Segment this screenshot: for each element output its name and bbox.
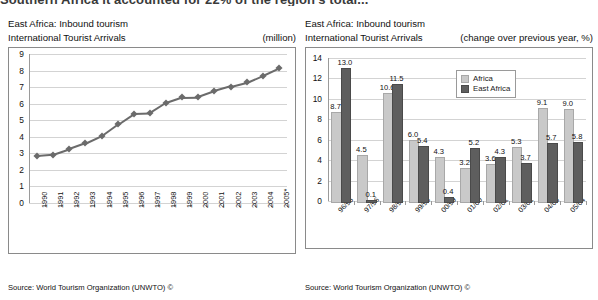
y-axis-tick-label: 8 (306, 114, 322, 124)
left-chart-unit: (million) (262, 32, 296, 43)
data-point-marker (179, 94, 186, 101)
legend-item-east-africa: East Africa (461, 84, 510, 94)
y-axis-tick-label: 2 (306, 176, 322, 186)
line-chart: 0123456789199019911992199319941995199619… (9, 48, 295, 253)
bar-east-africa (392, 84, 403, 203)
left-chart-title: East Africa: Inbound tourism (8, 18, 296, 29)
bar-value-label: 5.4 (413, 136, 432, 145)
bar-east-africa (366, 200, 377, 203)
bar-value-label: 9.0 (559, 99, 578, 108)
right-chart-subtitle-row: International Tourist Arrivals (change o… (305, 32, 593, 43)
x-axis-tick-label: 1995 (121, 192, 130, 208)
bar-chart-legend: AfricaEast Africa (456, 70, 516, 98)
bar-east-africa (418, 146, 429, 203)
y-gridline (29, 54, 287, 55)
x-axis-tick-label: 1999 (185, 192, 194, 208)
right-chart-unit: (change over previous year, %) (460, 32, 593, 43)
y-axis-tick-label: 4 (9, 132, 24, 142)
left-chart-subtitle-row: International Tourist Arrivals (million) (8, 32, 296, 43)
left-chart-panel: East Africa: Inbound tourism Internation… (8, 18, 296, 300)
bar-value-label: 5.3 (507, 137, 526, 146)
left-chart-subtitle: International Tourist Arrivals (8, 32, 126, 43)
y-gridline (29, 153, 287, 154)
y-axis-tick-label: 7 (9, 82, 24, 92)
right-plot-area: 0246810121496/958.713.097/964.50.198/971… (305, 47, 593, 249)
cut-off-headline: Southern Africa it accounted for 22% of … (0, 0, 598, 6)
bar-chart: 0246810121496/958.713.097/964.50.198/971… (306, 48, 592, 248)
bar-east-africa (495, 157, 506, 203)
bar-value-label: 4.3 (490, 147, 509, 156)
bar-east-africa (341, 68, 352, 203)
legend-swatch-east-africa (461, 85, 469, 93)
y-gridline (29, 104, 287, 105)
y-gridline (29, 170, 287, 171)
x-axis-tick-label: 2002 (234, 192, 243, 208)
bar-value-label: 0.4 (439, 187, 458, 196)
right-chart-source: Source: World Tourism Organization (UNWT… (305, 283, 470, 292)
x-axis-tick-label: 2001 (217, 192, 226, 208)
y-gridline (29, 137, 287, 138)
y-gridline (29, 120, 287, 121)
bar-value-label: 13.0 (336, 58, 355, 67)
y-axis-tick-label: 10 (306, 94, 322, 104)
y-axis-tick-label: 3 (9, 148, 24, 158)
x-axis-tick-label: 1992 (72, 192, 81, 208)
bar-value-label: 5.2 (465, 138, 484, 147)
y-axis-line (328, 58, 329, 201)
y-gridline (29, 87, 287, 88)
left-chart-source: Source: World Tourism Organization (UNWT… (8, 283, 173, 292)
y-axis-line (29, 54, 30, 203)
y-axis-tick-label: 12 (306, 73, 322, 83)
data-point-marker (227, 83, 234, 90)
bar-east-africa (470, 148, 481, 203)
bar-east-africa (521, 163, 532, 203)
y-axis-tick-label: 4 (306, 155, 322, 165)
y-gridline (29, 186, 287, 187)
x-axis-tick-label: 2005* (282, 189, 291, 208)
legend-item-africa: Africa (461, 74, 510, 84)
bar-east-africa (573, 142, 584, 203)
bar-value-label: 3.7 (516, 153, 535, 162)
bar-value-label: 4.3 (430, 147, 449, 156)
left-plot-area: 0123456789199019911992199319941995199619… (8, 47, 296, 254)
y-axis-tick-label: 6 (9, 99, 24, 109)
bar-east-africa (444, 197, 455, 203)
y-axis-tick-label: 1 (9, 181, 24, 191)
x-axis-tick-label: 1990 (40, 192, 49, 208)
bar-east-africa (547, 143, 558, 203)
y-axis-tick-label: 8 (9, 66, 24, 76)
x-axis-tick-label: 1991 (56, 192, 65, 208)
legend-label: East Africa (473, 84, 510, 94)
y-axis-tick-label: 6 (306, 135, 322, 145)
x-axis-tick-label: 2000 (201, 192, 210, 208)
right-chart-subtitle: International Tourist Arrivals (305, 32, 423, 43)
x-axis-tick-label: 2003 (250, 192, 259, 208)
right-chart-title: East Africa: Inbound tourism (305, 18, 593, 29)
bar-value-label: 11.5 (387, 74, 406, 83)
y-axis-tick-label: 5 (9, 115, 24, 125)
y-gridline (328, 58, 586, 59)
bar-value-label: 4.5 (352, 145, 371, 154)
bar-value-label: 5.8 (568, 132, 587, 141)
y-axis-tick-label: 0 (9, 198, 24, 208)
legend-label: Africa (473, 74, 493, 84)
y-axis-tick-label: 9 (9, 49, 24, 59)
data-point-marker (243, 79, 250, 86)
bar-value-label: 5.7 (542, 133, 561, 142)
y-axis-tick-label: 2 (9, 165, 24, 175)
bar-value-label: 9.1 (533, 98, 552, 107)
y-gridline (29, 71, 287, 72)
x-axis-tick-label: 1994 (105, 192, 114, 208)
x-axis-tick-label: 2004 (266, 192, 275, 208)
x-axis-tick-label: 1996 (137, 192, 146, 208)
x-axis-tick-label: 1998 (169, 192, 178, 208)
x-axis-tick-label: 1997 (153, 192, 162, 208)
figure-page: Southern Africa it accounted for 22% of … (0, 0, 598, 300)
x-axis-tick-label: 1993 (88, 192, 97, 208)
bar-value-label: 0.1 (361, 190, 380, 199)
legend-swatch-africa (461, 75, 469, 83)
y-axis-tick-label: 14 (306, 53, 322, 63)
y-axis-tick-label: 0 (306, 196, 322, 206)
right-chart-panel: East Africa: Inbound tourism Internation… (305, 18, 593, 300)
